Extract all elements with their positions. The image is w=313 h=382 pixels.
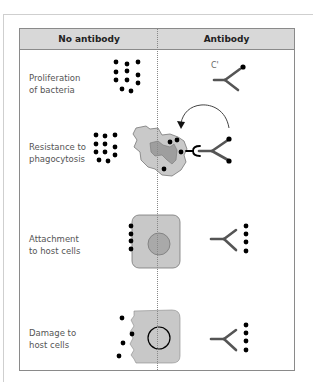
antibody-icon <box>211 230 236 250</box>
bacteria-cluster-phagocytosis <box>94 133 118 164</box>
column-divider <box>157 29 158 370</box>
nucleus-icon <box>148 233 170 255</box>
blocked-bacteria <box>244 224 249 254</box>
opsonizing-antibody-icon <box>199 140 228 160</box>
antibody-icon <box>214 69 240 90</box>
bound-bacterium-icon <box>226 136 231 141</box>
engulfment-arrow-icon <box>181 105 229 128</box>
bound-bacterium-icon <box>240 64 245 69</box>
neutralized-bacteria <box>244 323 249 353</box>
damaged-host-cell-icon <box>130 310 180 363</box>
bacteria-cluster-proliferation <box>114 60 141 94</box>
complement-label: C' <box>211 61 219 70</box>
arrowhead-icon <box>177 121 185 129</box>
antibody-icon <box>211 330 236 350</box>
bound-bacterium-icon <box>226 158 231 163</box>
